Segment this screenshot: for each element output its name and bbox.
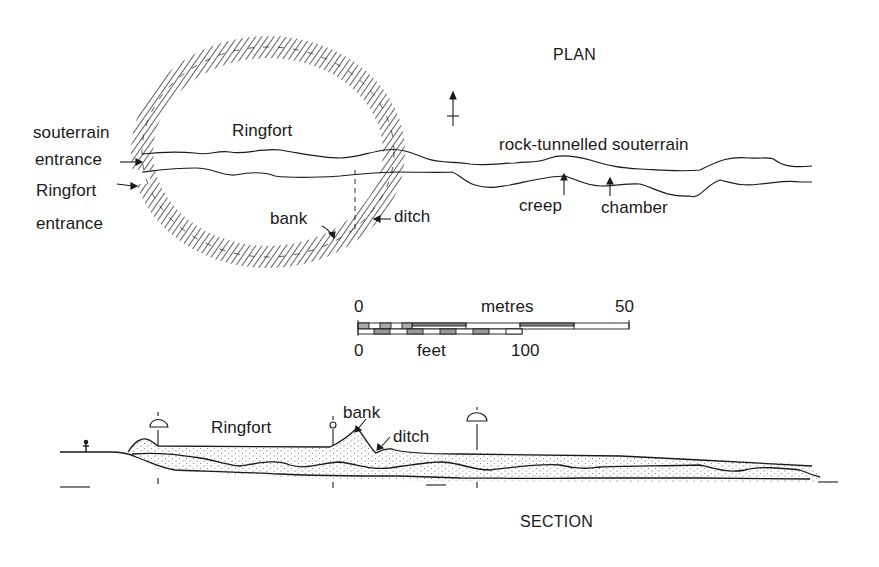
- scale-bar: [358, 320, 629, 336]
- scale-metres-end: 50: [615, 297, 634, 317]
- ringfort-plan-label: Ringfort: [232, 121, 292, 141]
- bank-plan-label: bank: [270, 209, 307, 229]
- scale-feet-start: 0: [354, 341, 364, 361]
- north-arrow-icon: [447, 92, 459, 126]
- creep-label: creep: [519, 196, 562, 216]
- ringfort-section-label: Ringfort: [211, 418, 271, 438]
- ditch-plan-label: ditch: [394, 207, 430, 227]
- ground-surface-left: [60, 452, 136, 457]
- scale-metres-start: 0: [354, 297, 364, 317]
- section-reference-dashes: [60, 482, 838, 487]
- plan-title: PLAN: [553, 45, 596, 65]
- ringfort-souterrain-diagram: [0, 0, 879, 567]
- souterrain-entrance-label-line2: entrance: [35, 150, 102, 170]
- rock-tunnelled-souterrain-label: rock-tunnelled souterrain: [499, 135, 689, 155]
- ringfort-entrance-label-line1: Ringfort: [36, 181, 96, 201]
- ringfort-entrance-label-line2: entrance: [36, 214, 103, 234]
- metres-subdivisions: [358, 323, 412, 329]
- plan-view: [117, 36, 812, 268]
- section-view: [60, 407, 838, 488]
- scale-feet-end: 100: [511, 341, 540, 361]
- scale-feet-label: feet: [417, 341, 446, 361]
- ditch-section-label: ditch: [393, 427, 429, 447]
- human-figure-icon: [83, 441, 89, 453]
- chamber-label: chamber: [601, 198, 668, 218]
- scale-metres-label: metres: [481, 297, 534, 317]
- section-title: SECTION: [520, 512, 593, 532]
- souterrain-entrance-label-line1: souterrain: [33, 123, 110, 143]
- bank-section-label: bank: [343, 403, 380, 423]
